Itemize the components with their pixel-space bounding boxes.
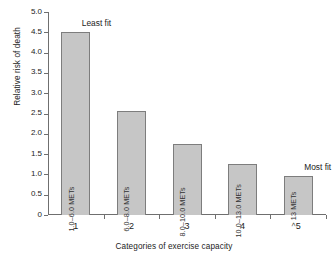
y-tick-mark: [44, 32, 48, 33]
y-axis-line: [48, 12, 49, 215]
bar-chart-figure: Relative risk of death Categories of exe…: [0, 0, 335, 260]
y-tick-label: 4.5: [31, 27, 42, 36]
y-tick-mark: [44, 12, 48, 13]
y-tick-mark: [44, 73, 48, 74]
y-tick-mark: [44, 53, 48, 54]
y-tick-mark: [44, 134, 48, 135]
bar[interactable]: 1.0–6.0 METs: [61, 32, 90, 215]
y-tick-label: 3.0: [31, 88, 42, 97]
x-tick-mark: [326, 215, 327, 219]
bar-value-label: 6.0–8.0 METs: [122, 186, 131, 231]
bar[interactable]: 6.0–8.0 METs: [117, 111, 146, 215]
y-tick-mark: [44, 114, 48, 115]
y-tick-mark: [44, 195, 48, 196]
x-tick-mark: [215, 215, 216, 219]
bar[interactable]: 10.0–13.0 METs: [228, 164, 257, 215]
bar-annotation: Least fit: [82, 18, 111, 28]
bar-value-label: 10.0–13.0 METs: [234, 181, 243, 237]
y-tick-label: 0: [38, 210, 42, 219]
x-tick-label: 5: [283, 221, 313, 231]
bar-annotation: Most fit: [304, 162, 331, 172]
y-tick-mark: [44, 174, 48, 175]
y-tick-mark: [44, 93, 48, 94]
y-axis-title: Relative risk of death: [13, 0, 22, 142]
y-tick-label: 2.5: [31, 108, 42, 117]
y-tick-label: 5.0: [31, 7, 42, 16]
bar-value-label: > 13 METs: [289, 191, 298, 226]
y-tick-label: 1.0: [31, 169, 42, 178]
y-tick-label: 1.5: [31, 149, 42, 158]
x-tick-mark: [159, 215, 160, 219]
y-tick-label: 0.5: [31, 189, 42, 198]
bar-value-label: 1.0–6.0 METs: [67, 186, 76, 231]
y-tick-mark: [44, 215, 48, 216]
x-tick-mark: [104, 215, 105, 219]
y-tick-label: 4.0: [31, 47, 42, 56]
plot-area: 00.51.01.52.02.53.03.54.04.55.0 12345 1.…: [48, 12, 326, 215]
bar-value-label: 8.0–10.0 METs: [179, 181, 188, 237]
y-tick-label: 3.5: [31, 67, 42, 76]
x-tick-label: 2: [116, 221, 146, 231]
x-tick-label: 3: [172, 221, 202, 231]
y-tick-mark: [44, 154, 48, 155]
y-tick-label: 2.0: [31, 128, 42, 137]
bar[interactable]: 8.0–10.0 METs: [173, 144, 202, 215]
bar[interactable]: > 13 METs: [284, 176, 313, 215]
x-tick-mark: [270, 215, 271, 219]
x-axis-title: Categories of exercise capacity: [34, 242, 314, 251]
